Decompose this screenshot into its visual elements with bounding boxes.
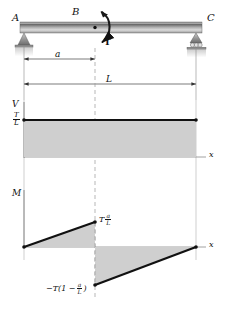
shear-value-label: T L (13, 112, 20, 127)
beam-highlight (20, 23, 202, 24)
dimension-label-a: a (55, 50, 60, 59)
moment-axis-label: M (12, 189, 21, 198)
shear-x-axis-label: x (209, 151, 214, 159)
beam-diagram-figure (0, 0, 228, 314)
beam-assembly (15, 12, 206, 58)
label-a: A (12, 13, 19, 23)
moment-diagram (22, 190, 206, 287)
moment-peak-denominator: L (105, 220, 111, 226)
moment-x-axis-label: x (209, 241, 214, 249)
dimension-label-L: L (106, 75, 112, 84)
moment-peak-label: TaL (99, 213, 111, 226)
moment-min-label: −T(1 −aL) (46, 282, 87, 295)
label-b: B (72, 7, 79, 17)
moment-min-prefix: −T(1 − (46, 284, 76, 293)
point-b-marker (93, 26, 96, 29)
shear-diagram (22, 102, 206, 158)
shear-axis-label: V (12, 100, 19, 109)
shear-value-denominator: L (13, 120, 20, 127)
moment-min-denominator: L (77, 289, 83, 295)
shear-area-fill (24, 120, 196, 157)
moment-peak-prefix: T (99, 215, 104, 224)
label-torque-t: T (104, 38, 111, 47)
label-c: C (207, 13, 215, 23)
moment-min-suffix: ) (83, 284, 86, 293)
roller-support-c (187, 33, 206, 57)
